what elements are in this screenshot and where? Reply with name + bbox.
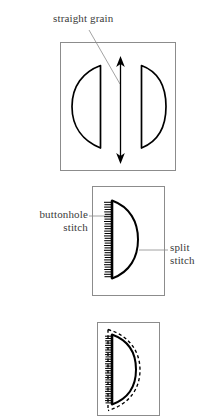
split-stitch-label: split stitch: [170, 241, 210, 266]
grainline-arrow-head-bottom: [116, 153, 125, 164]
buttonhole-stitch-ticks-panel2: [104, 202, 112, 276]
buttonhole-stitch-label: buttonhole stitch: [4, 208, 88, 233]
panel-stitches-frame: [93, 187, 165, 296]
panel-finished-frame: [98, 323, 160, 416]
figure-canvas: straight grain buttonhole stitch split s…: [0, 0, 211, 416]
panel-grain-group: [61, 30, 176, 171]
buttonhole-stitch-ticks-panel3: [105, 336, 112, 403]
left-pattern-piece: [72, 66, 101, 149]
seam-allowance-dashed-outline: [108, 330, 140, 411]
split-stitch-curve-panel2: [112, 201, 138, 279]
grainline-arrow-head-top: [116, 56, 125, 67]
straight-grain-label: straight grain: [53, 12, 113, 25]
panel-stitches-group: [89, 187, 168, 296]
right-pattern-piece: [142, 66, 167, 149]
panel-grain-frame: [61, 43, 176, 171]
panel-finished-group: [98, 323, 160, 416]
split-stitch-curve-panel3: [112, 335, 136, 405]
straight-grain-leader-line: [89, 30, 120, 84]
